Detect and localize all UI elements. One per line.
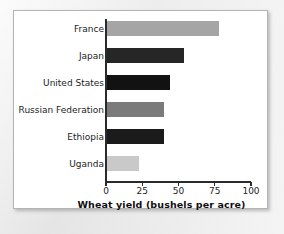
- y-axis-tick-label: United States: [4, 79, 104, 88]
- y-axis-tick-label: Russian Federation: [4, 106, 104, 115]
- x-axis-tick-label: 0: [86, 187, 126, 196]
- plot-area: France Japan United States Russian Feder…: [14, 11, 267, 208]
- y-axis-tick-label: Japan: [4, 52, 104, 61]
- chart-figure-card: France Japan United States Russian Feder…: [13, 10, 268, 209]
- x-axis-tick-label: 100: [231, 187, 271, 196]
- bar-france: [106, 21, 219, 36]
- x-axis-tick-label: 25: [122, 187, 162, 196]
- bar-uganda: [106, 156, 139, 171]
- bar-united-states: [106, 75, 170, 90]
- bar-ethiopia: [106, 129, 164, 144]
- x-axis-tick-label: 75: [195, 187, 235, 196]
- y-axis-tick-label: Ethiopia: [4, 133, 104, 142]
- bar-russian-federation: [106, 102, 164, 117]
- y-axis-line: [105, 19, 107, 182]
- y-axis-tick-label: Uganda: [4, 160, 104, 169]
- bar-japan: [106, 48, 184, 63]
- x-axis-tick-label: 50: [159, 187, 199, 196]
- y-axis-tick-label: France: [4, 25, 104, 34]
- x-axis-title: Wheat yield (bushels per acre): [14, 199, 267, 210]
